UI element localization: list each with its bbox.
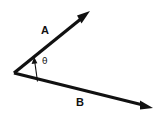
vector-b-arrowhead (140, 101, 153, 110)
vector-angle-diagram: A B θ (0, 0, 166, 121)
vector-a-label: A (41, 25, 49, 36)
angle-theta-label: θ (42, 57, 48, 66)
vector-b-label: B (76, 97, 84, 108)
